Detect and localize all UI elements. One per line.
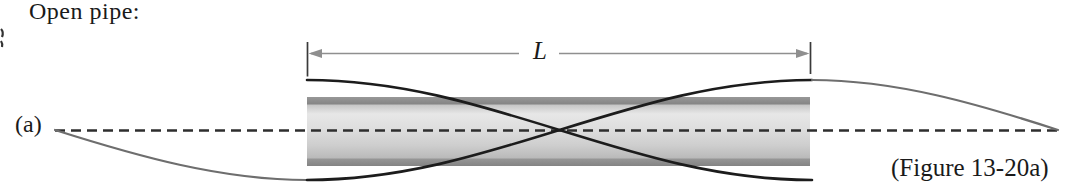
- pipe-lower-wall: [307, 159, 810, 167]
- wave-gray-left-extension: [55, 130, 307, 180]
- page-edge-artifact: [1, 29, 3, 47]
- figure-canvas: Open pipe: (a) L (Figure 13-20a): [0, 0, 1084, 188]
- wave-gray-right-extension: [812, 80, 1058, 130]
- length-dimension: [308, 42, 811, 77]
- subfigure-label-a: (a): [15, 110, 42, 138]
- dimension-arrowhead-left-icon: [309, 49, 323, 58]
- length-dimension-label: L: [524, 37, 556, 65]
- dimension-arrowhead-right-icon: [796, 49, 810, 58]
- pipe-upper-wall: [307, 97, 810, 105]
- figure-caption: (Figure 13-20a): [891, 154, 1049, 182]
- figure-title: Open pipe:: [29, 0, 140, 25]
